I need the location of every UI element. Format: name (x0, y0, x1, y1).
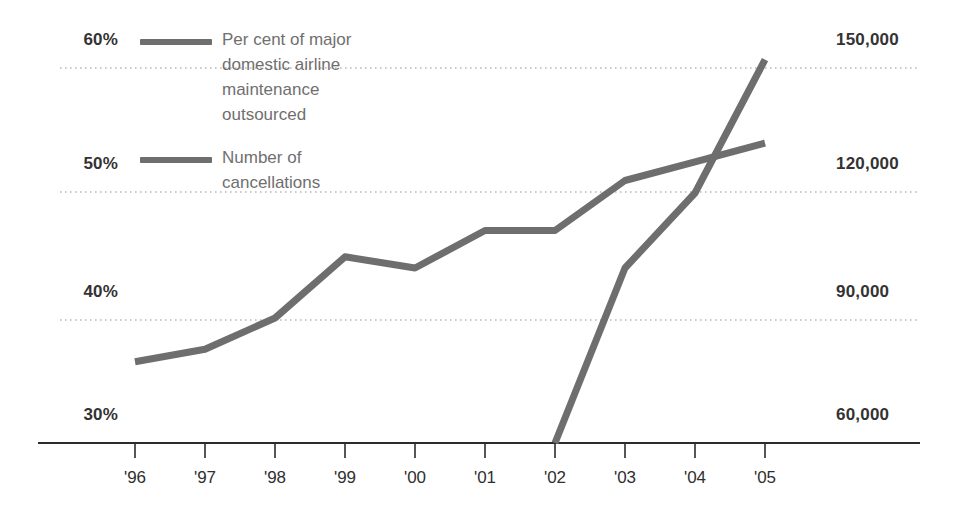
x-axis-label-02: '02 (525, 468, 585, 488)
y-axis-right-label-120000: 120,000 (836, 154, 946, 174)
legend-swatch-percent-outsourced (140, 39, 212, 45)
legend-label-percent-outsourced: Per cent of major domestic airline maint… (222, 27, 432, 127)
y-axis-right-label-60000: 60,000 (836, 405, 946, 425)
x-axis-label-96: '96 (105, 468, 165, 488)
chart-container: 60% 50% 40% 30% 150,000 120,000 90,000 6… (0, 0, 955, 519)
legend-swatch-cancellations (140, 157, 212, 163)
x-axis-label-03: '03 (595, 468, 655, 488)
x-axis-ticks (135, 443, 765, 458)
y-axis-right-label-90000: 90,000 (836, 282, 946, 302)
x-axis-label-01: '01 (455, 468, 515, 488)
chart-plot-area (0, 0, 955, 519)
y-axis-left-label-60: 60% (28, 30, 118, 50)
x-axis-label-97: '97 (175, 468, 235, 488)
x-axis-label-00: '00 (385, 468, 445, 488)
y-axis-left-label-30: 30% (28, 405, 118, 425)
y-axis-left-label-50: 50% (28, 154, 118, 174)
legend-label-cancellations: Number of cancellations (222, 145, 432, 195)
y-axis-left-label-40: 40% (28, 282, 118, 302)
x-axis-label-99: '99 (315, 468, 375, 488)
series-line-cancellations (555, 60, 765, 443)
x-axis-label-98: '98 (245, 468, 305, 488)
x-axis-label-05: '05 (735, 468, 795, 488)
x-axis-label-04: '04 (665, 468, 725, 488)
gridlines (60, 68, 920, 320)
y-axis-right-label-150000: 150,000 (836, 30, 946, 50)
